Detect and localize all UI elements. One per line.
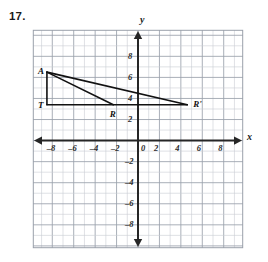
coordinate-graph: –8–6–4–224688642–2–4–6–80 ATRR' x y bbox=[33, 30, 243, 248]
y-tick-label: –8 bbox=[125, 220, 134, 229]
worksheet-figure: 17. –8–6–4–224688642–2–4–6–80 ATRR' x y bbox=[0, 0, 268, 262]
x-tick-label: –8 bbox=[47, 144, 56, 153]
y-tick-label: 6 bbox=[128, 73, 132, 82]
x-tick-label: –4 bbox=[90, 144, 99, 153]
x-tick-label: 6 bbox=[197, 144, 201, 153]
x-tick-label: 4 bbox=[175, 144, 179, 153]
y-tick-label: 8 bbox=[128, 52, 132, 61]
x-axis-label: x bbox=[247, 132, 252, 142]
vertex-label-R: R bbox=[110, 110, 116, 119]
vertex-label-A: A bbox=[38, 67, 44, 76]
y-tick-label: –6 bbox=[125, 199, 134, 208]
x-tick-label: 8 bbox=[218, 144, 222, 153]
vertex-label-T: T bbox=[38, 101, 44, 110]
figure-triangles bbox=[33, 30, 243, 248]
origin-label: 0 bbox=[141, 144, 145, 153]
y-tick-label: 2 bbox=[128, 115, 132, 124]
problem-number: 17. bbox=[9, 10, 26, 22]
y-tick-label: –4 bbox=[125, 178, 134, 187]
vertex-label-R-prime: R' bbox=[193, 100, 202, 109]
y-tick-label: –2 bbox=[125, 157, 134, 166]
y-tick-label: 4 bbox=[128, 94, 132, 103]
y-axis-label: y bbox=[140, 15, 144, 25]
segment-A-R' bbox=[47, 72, 187, 105]
x-tick-label: 2 bbox=[154, 144, 158, 153]
x-tick-label: –6 bbox=[68, 144, 77, 153]
segment-A-R bbox=[47, 72, 113, 105]
x-tick-label: –2 bbox=[111, 144, 120, 153]
